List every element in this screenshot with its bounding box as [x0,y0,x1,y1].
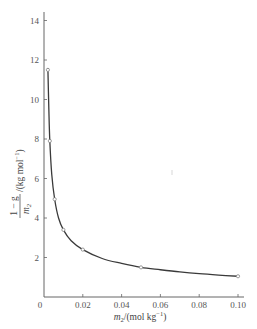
data-point [81,248,84,251]
y-axis-label: 1 − g m2 /(kg mol−1) [9,149,32,218]
data-point [46,68,49,71]
y-tick-label: 12 [30,55,39,65]
axes [44,12,244,297]
y-tick-label: 4 [35,213,40,223]
x-tick-label: 0.08 [191,300,207,310]
x-tick-label: 0.10 [230,300,246,310]
y-label-denominator: m2 [21,203,32,214]
x-tick-label: 0 [38,300,43,310]
y-label-unit: /(kg mol−1) [13,149,26,192]
data-point [236,275,239,278]
x-tick-label: 0.06 [153,300,169,310]
x-axis-label: m2/(mol kg−1) [114,310,167,323]
y-tick-label: 14 [30,16,40,26]
x-axis-ticks: 00.020.040.060.080.10 [38,294,247,310]
data-point [139,266,142,269]
y-label-numerator: 1 − g [9,196,19,216]
y-tick-label: 2 [35,253,40,263]
fitted-curve [48,68,238,276]
y-tick-label: 6 [35,174,40,184]
y-tick-label: 8 [35,134,40,144]
x-tick-label: 0.02 [75,300,91,310]
data-point [48,139,51,142]
chart: 2468101214 00.020.040.060.080.10 1 − g m… [0,0,257,329]
data-points [46,68,239,278]
data-point [53,198,56,201]
data-point [62,228,65,231]
y-tick-label: 10 [30,95,40,105]
x-tick-label: 0.04 [114,300,130,310]
